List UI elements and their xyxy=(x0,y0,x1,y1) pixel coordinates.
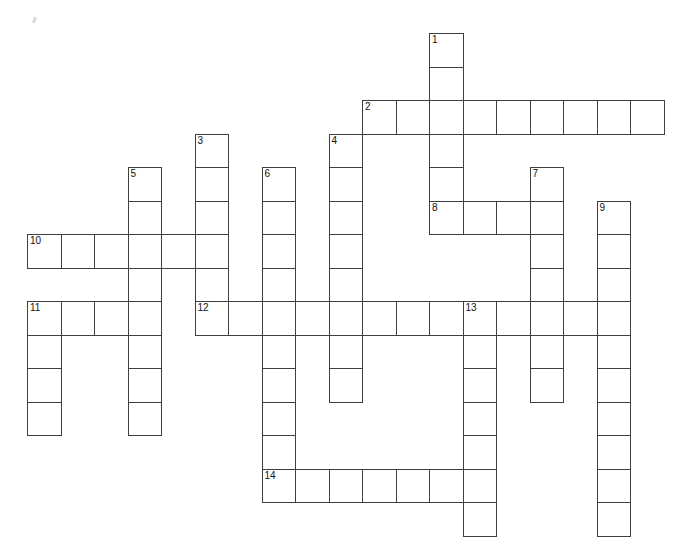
crossword-cell[interactable] xyxy=(329,368,364,403)
crossword-cell[interactable] xyxy=(429,67,464,102)
crossword-cell[interactable] xyxy=(329,234,364,269)
crossword-cell[interactable] xyxy=(27,368,62,403)
crossword-cell[interactable] xyxy=(128,201,163,236)
crossword-cell[interactable] xyxy=(128,268,163,303)
crossword-cell[interactable] xyxy=(429,134,464,169)
crossword-cell[interactable] xyxy=(597,301,632,336)
crossword-cell[interactable] xyxy=(597,100,632,135)
crossword-cell[interactable] xyxy=(228,301,263,336)
crossword-cell[interactable]: 1 xyxy=(429,33,464,68)
crossword-cell[interactable] xyxy=(597,268,632,303)
crossword-cell[interactable]: 10 xyxy=(27,234,62,269)
crossword-cell[interactable] xyxy=(94,234,129,269)
crossword-cell[interactable] xyxy=(262,368,297,403)
crossword-cell[interactable]: 3 xyxy=(195,134,230,169)
crossword-cell[interactable] xyxy=(597,368,632,403)
crossword-cell[interactable] xyxy=(262,268,297,303)
crossword-cell[interactable] xyxy=(27,335,62,370)
crossword-cell[interactable] xyxy=(463,502,498,537)
crossword-cell[interactable] xyxy=(530,368,565,403)
cell-number: 9 xyxy=(600,202,606,214)
crossword-cell[interactable] xyxy=(630,100,665,135)
crossword-cell[interactable] xyxy=(563,100,598,135)
crossword-cell[interactable] xyxy=(429,100,464,135)
crossword-cell[interactable] xyxy=(496,301,531,336)
crossword-cell[interactable] xyxy=(530,234,565,269)
crossword-cell[interactable]: 14 xyxy=(262,469,297,504)
crossword-cell[interactable] xyxy=(161,234,196,269)
crossword-cell[interactable] xyxy=(61,234,96,269)
crossword-cell[interactable] xyxy=(530,268,565,303)
crossword-cell[interactable] xyxy=(128,301,163,336)
crossword-cell[interactable] xyxy=(463,335,498,370)
crossword-cell[interactable]: 5 xyxy=(128,167,163,202)
crossword-cell[interactable] xyxy=(496,201,531,236)
crossword-cell[interactable] xyxy=(329,201,364,236)
crossword-cell[interactable] xyxy=(329,167,364,202)
crossword-cell[interactable] xyxy=(195,167,230,202)
crossword-cell[interactable] xyxy=(463,100,498,135)
crossword-cell[interactable] xyxy=(128,402,163,437)
crossword-cell[interactable] xyxy=(295,301,330,336)
crossword-cell[interactable] xyxy=(61,301,96,336)
crossword-cell[interactable] xyxy=(329,268,364,303)
cell-number: 1 xyxy=(432,34,438,46)
cell-number: 14 xyxy=(265,470,276,482)
crossword-cell[interactable]: 2 xyxy=(362,100,397,135)
crossword-cell[interactable]: 12 xyxy=(195,301,230,336)
crossword-cell[interactable] xyxy=(295,469,330,504)
crossword-cell[interactable] xyxy=(195,234,230,269)
crossword-cell[interactable]: 6 xyxy=(262,167,297,202)
crossword-cell[interactable] xyxy=(429,301,464,336)
crossword-cell[interactable] xyxy=(362,301,397,336)
crossword-cell[interactable]: 7 xyxy=(530,167,565,202)
crossword-cell[interactable] xyxy=(329,301,364,336)
crossword-cell[interactable] xyxy=(530,335,565,370)
crossword-cell[interactable] xyxy=(128,368,163,403)
crossword-cell[interactable] xyxy=(195,268,230,303)
crossword-cell[interactable] xyxy=(94,301,129,336)
crossword-cell[interactable] xyxy=(463,469,498,504)
crossword-cell[interactable] xyxy=(463,402,498,437)
crossword-cell[interactable] xyxy=(262,335,297,370)
crossword-cell[interactable] xyxy=(429,469,464,504)
crossword-cell[interactable] xyxy=(530,301,565,336)
crossword-cell[interactable] xyxy=(128,335,163,370)
crossword-cell[interactable] xyxy=(195,201,230,236)
crossword-cell[interactable] xyxy=(496,100,531,135)
crossword-cell[interactable]: 8 xyxy=(429,201,464,236)
crossword-cell[interactable] xyxy=(597,502,632,537)
crossword-cell[interactable] xyxy=(329,469,364,504)
crossword-cell[interactable] xyxy=(463,435,498,470)
crossword-grid[interactable]: 1234567891011121314 xyxy=(0,0,689,543)
crossword-cell[interactable] xyxy=(597,435,632,470)
crossword-cell[interactable] xyxy=(396,469,431,504)
cell-number: 5 xyxy=(131,168,137,180)
crossword-cell[interactable] xyxy=(396,100,431,135)
crossword-cell[interactable] xyxy=(262,234,297,269)
crossword-cell[interactable] xyxy=(463,201,498,236)
crossword-cell[interactable] xyxy=(262,201,297,236)
crossword-cell[interactable] xyxy=(329,335,364,370)
crossword-cell[interactable] xyxy=(27,402,62,437)
crossword-cell[interactable]: 4 xyxy=(329,134,364,169)
crossword-cell[interactable] xyxy=(262,301,297,336)
crossword-cell[interactable]: 13 xyxy=(463,301,498,336)
crossword-cell[interactable]: 9 xyxy=(597,201,632,236)
crossword-cell[interactable] xyxy=(262,435,297,470)
crossword-cell[interactable] xyxy=(128,234,163,269)
cell-number: 4 xyxy=(332,135,338,147)
crossword-cell[interactable] xyxy=(597,469,632,504)
crossword-cell[interactable] xyxy=(362,469,397,504)
crossword-cell[interactable] xyxy=(563,301,598,336)
crossword-cell[interactable] xyxy=(597,335,632,370)
crossword-cell[interactable] xyxy=(597,234,632,269)
crossword-cell[interactable] xyxy=(530,100,565,135)
crossword-cell[interactable] xyxy=(429,167,464,202)
crossword-cell[interactable] xyxy=(597,402,632,437)
crossword-cell[interactable]: 11 xyxy=(27,301,62,336)
crossword-cell[interactable] xyxy=(396,301,431,336)
crossword-cell[interactable] xyxy=(262,402,297,437)
crossword-cell[interactable] xyxy=(463,368,498,403)
crossword-cell[interactable] xyxy=(530,201,565,236)
